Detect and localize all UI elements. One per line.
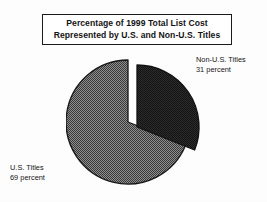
callout-label-us-titles: U.S. Titles 69 percent — [10, 163, 45, 182]
chart-title-line-1: Percentage of 1999 Total List Cost — [66, 18, 207, 30]
pie-chart — [66, 50, 214, 195]
pie-chart-svg — [66, 50, 214, 195]
callout-us-value: 69 percent — [10, 173, 45, 183]
callout-label-non-us-titles: Non-U.S. Titles 31 percent — [196, 55, 246, 74]
chart-title-line-2: Represented by U.S. and Non-U.S. Titles — [54, 30, 221, 42]
chart-title-box: Percentage of 1999 Total List Cost Repre… — [42, 14, 232, 45]
callout-non-us-value: 31 percent — [196, 65, 246, 75]
chart-canvas: Percentage of 1999 Total List Cost Repre… — [0, 0, 267, 202]
callout-us-name: U.S. Titles — [10, 163, 45, 173]
callout-non-us-name: Non-U.S. Titles — [196, 55, 246, 65]
